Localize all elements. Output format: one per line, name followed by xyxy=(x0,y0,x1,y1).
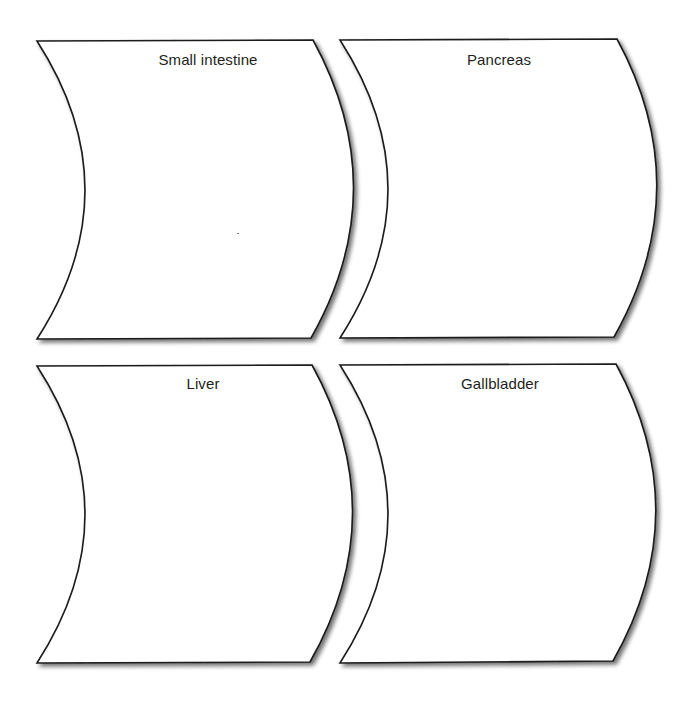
card-label-gallbladder: Gallbladder xyxy=(461,375,539,393)
card-label-liver: Liver xyxy=(186,375,219,393)
card-content-liver[interactable] xyxy=(110,404,330,644)
card-label-small-intestine: Small intestine xyxy=(158,51,257,69)
card-content-gallbladder[interactable] xyxy=(410,404,630,644)
card-content-pancreas[interactable] xyxy=(410,80,630,320)
stray-mark xyxy=(237,233,239,234)
card-content-small-intestine[interactable] xyxy=(110,80,330,320)
card-label-pancreas: Pancreas xyxy=(467,51,531,69)
